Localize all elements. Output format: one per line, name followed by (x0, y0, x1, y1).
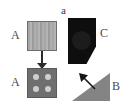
shape-c-inner-circle (72, 31, 91, 50)
shape-label-b: B (112, 80, 120, 92)
panel-label-a: a (61, 5, 66, 16)
shape-c-dark-pentagon (68, 18, 96, 64)
shape-label-a-top: A (11, 29, 20, 41)
dot-top-left (33, 74, 39, 80)
shape-a-top-striped-square (27, 21, 57, 51)
shape-label-a-bottom: A (11, 76, 20, 88)
shape-a-bottom-dotted-square (27, 68, 57, 98)
arrow-up-left-icon (78, 72, 96, 90)
figure-panel: a A A C B (0, 0, 124, 109)
dot-bottom-left (33, 86, 39, 92)
dot-bottom-right (45, 86, 51, 92)
dot-top-right (45, 74, 51, 80)
shape-label-c: C (100, 27, 108, 39)
